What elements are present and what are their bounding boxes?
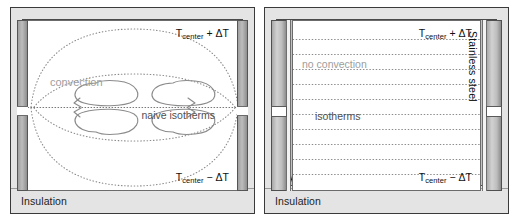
insulation-label: Insulation <box>275 195 321 207</box>
temp-top-subscript: center <box>182 32 203 41</box>
temp-bottom-subscript: center <box>182 176 203 185</box>
wall-gap-right <box>237 106 248 116</box>
temp-bottom-subscript: center <box>425 176 446 185</box>
convection-arrow-upper-left <box>74 98 81 107</box>
convection-arrow-lower-left <box>74 108 81 117</box>
temp-top-label-left: Tcenter + ΔT <box>176 27 229 41</box>
wall-gap-left <box>17 106 28 116</box>
temp-bottom-label-left: Tcenter − ΔT <box>176 171 229 185</box>
no-convection-label: no convection <box>302 58 367 70</box>
cavity-right: Tcenter + ΔT Tcenter − ΔT no convection … <box>292 20 481 191</box>
thermal-diagram-figure: Insulation Aluminum <box>0 0 509 222</box>
convection-label: convection <box>50 76 103 88</box>
temp-top-subscript: center <box>425 32 446 41</box>
temp-bottom-suffix: − ΔT <box>447 171 472 183</box>
convection-loop-lower-left <box>75 109 138 134</box>
isotherms-label: isotherms <box>315 110 361 122</box>
temp-top-suffix: + ΔT <box>204 27 229 39</box>
plate-gap-right <box>486 106 502 117</box>
naive-isotherms-label: naive isotherms <box>141 109 215 121</box>
temp-top-label-right: Tcenter + ΔT <box>419 27 472 41</box>
right-panel-no-convection: Insulation Aluminum Tcenter + ΔT T <box>264 7 509 214</box>
convection-flow-diagram <box>28 21 238 191</box>
isotherm-lines-diagram <box>293 21 481 191</box>
outer-isotherm-upper <box>31 29 238 107</box>
temp-bottom-label-right: Tcenter − ΔT <box>419 171 472 185</box>
plate-gap-left <box>271 106 287 117</box>
convection-loop-upper-right <box>152 81 215 106</box>
cavity-left: Tcenter + ΔT Tcenter − ΔT convection nai… <box>27 20 238 191</box>
stainless-steel-label: Stainless steel <box>467 31 479 102</box>
insulation-label: Insulation <box>21 195 67 207</box>
temp-bottom-suffix: − ΔT <box>204 171 229 183</box>
left-panel-convection: Insulation Aluminum <box>10 7 255 214</box>
